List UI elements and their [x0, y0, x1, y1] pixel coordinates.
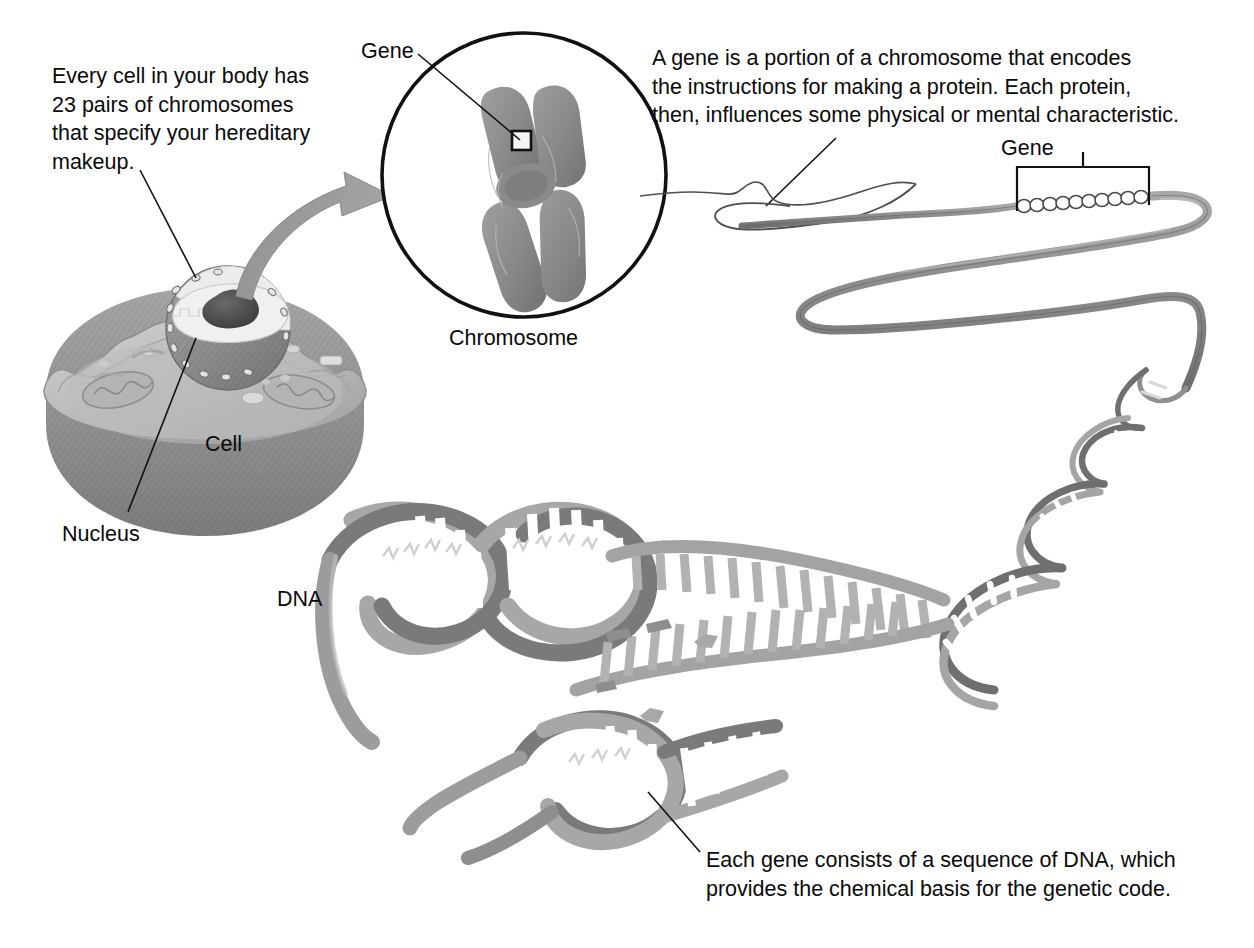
label-gene-bracket: Gene	[1001, 135, 1054, 161]
caption-intro: Every cell in your body has 23 pairs of …	[52, 62, 310, 176]
dna-helix-small	[1020, 370, 1186, 584]
gene-marker-square	[512, 131, 531, 150]
label-nucleus: Nucleus	[62, 521, 140, 547]
leader-intro	[140, 170, 196, 278]
figure-canvas: Every cell in your body has 23 pairs of …	[0, 0, 1254, 948]
dna-helix-medium	[944, 568, 1062, 706]
cell-illustration	[44, 266, 366, 536]
caption-gene-definition: A gene is a portion of a chromosome that…	[652, 44, 1179, 130]
label-chromosome: Chromosome	[449, 325, 578, 351]
gene-coil-segment	[1017, 191, 1152, 213]
chromatin-fiber	[640, 182, 1207, 388]
label-gene-chromosome: Gene	[361, 38, 414, 64]
chromosome-circle	[382, 33, 666, 318]
nucleus-illustration	[166, 266, 290, 390]
label-cell: Cell	[205, 431, 242, 457]
leader-gene-definition	[766, 138, 836, 206]
caption-dna-definition: Each gene consists of a sequence of DNA,…	[706, 846, 1176, 903]
dna-helix	[323, 370, 1186, 858]
label-dna: DNA	[277, 586, 322, 612]
dna-helix-lower	[410, 718, 782, 858]
